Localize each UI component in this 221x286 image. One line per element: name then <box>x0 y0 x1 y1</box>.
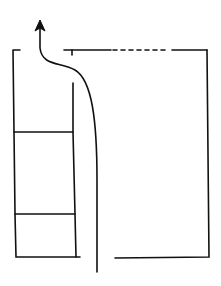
left-outer-wall <box>13 50 80 257</box>
floor-plan-diagram <box>0 0 221 286</box>
flow-line <box>40 26 97 272</box>
right-outer-wall <box>115 50 209 258</box>
inner-partition <box>73 83 76 257</box>
